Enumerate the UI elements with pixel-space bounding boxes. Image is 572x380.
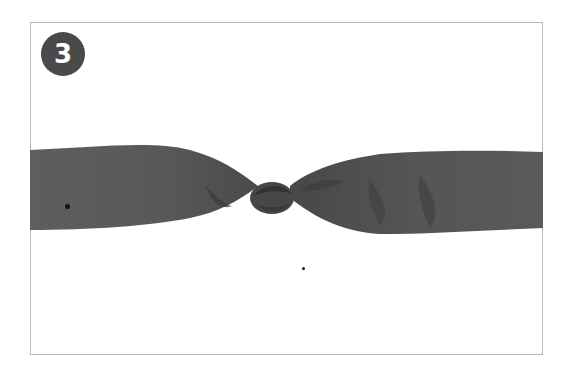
- step-number-badge: 3: [41, 32, 85, 76]
- left-fabric-band: [30, 145, 258, 230]
- step-number: 3: [54, 39, 72, 69]
- right-fabric-band: [290, 151, 543, 234]
- knotted-fabric-illustration: [0, 0, 572, 380]
- lower-marker-dot: [302, 267, 305, 270]
- left-marker-dot: [65, 204, 70, 209]
